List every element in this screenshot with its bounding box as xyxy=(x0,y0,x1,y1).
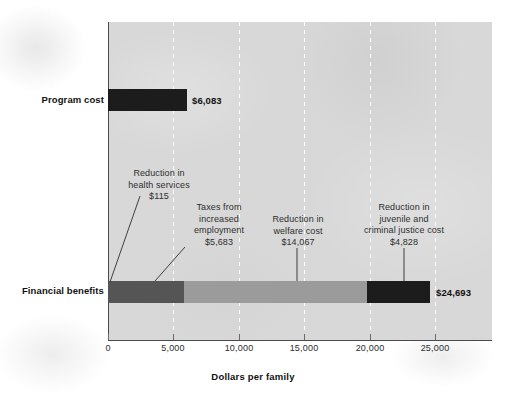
x-tick-15000 xyxy=(304,334,305,340)
category-label-financial-benefits: Financial benefits xyxy=(22,285,104,296)
annotation-welfare-cost: Reduction in welfare cost $14,067 xyxy=(256,214,340,249)
x-tick-label-0: 0 xyxy=(105,343,110,353)
annotation-taxes-employment: Taxes from increased employment $5,683 xyxy=(178,202,260,248)
bar-segment-program-cost xyxy=(108,89,187,111)
x-axis-line xyxy=(108,340,492,341)
bar-total-label-financial-benefits: $24,693 xyxy=(436,287,471,298)
bar-segment-juvenile-criminal-justice xyxy=(367,281,430,303)
annotation-health-services: Reduction in health services $115 xyxy=(112,168,206,203)
x-tick-label-25000: 25,000 xyxy=(421,343,450,353)
annotation-juvenile-criminal-justice: Reduction in juvenile and criminal justi… xyxy=(350,202,458,248)
category-label-program-cost: Program cost xyxy=(42,94,104,105)
bar-total-label-program-cost: $6,083 xyxy=(192,95,222,106)
x-tick-0 xyxy=(108,334,109,340)
x-tick-label-15000: 15,000 xyxy=(290,343,319,353)
x-tick-label-10000: 10,000 xyxy=(225,343,254,353)
chart-container: 0 5,000 10,000 15,000 20,000 25,000 Doll… xyxy=(0,0,506,398)
bar-segment-welfare-cost xyxy=(184,281,367,303)
x-tick-10000 xyxy=(239,334,240,340)
bar-segment-taxes-increased-employment xyxy=(110,281,184,303)
x-tick-label-5000: 5,000 xyxy=(161,343,185,353)
x-tick-25000 xyxy=(435,334,436,340)
x-axis-title: Dollars per family xyxy=(0,371,506,382)
x-tick-20000 xyxy=(370,334,371,340)
x-tick-label-20000: 20,000 xyxy=(356,343,385,353)
x-tick-5000 xyxy=(173,334,174,340)
